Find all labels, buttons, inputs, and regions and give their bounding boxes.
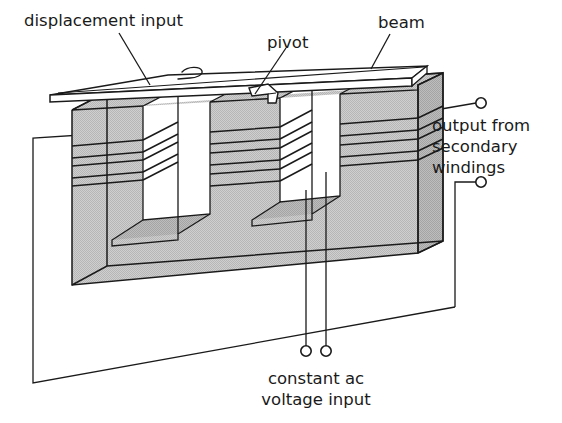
output-bottom-wire — [455, 182, 476, 307]
label-displacement-input: displacement input — [24, 11, 183, 30]
terminal-output-bottom[interactable] — [476, 177, 486, 187]
label-pivot: pivot — [267, 33, 309, 52]
terminal-output-top[interactable] — [476, 98, 486, 108]
leader-beam — [371, 34, 390, 69]
diagram-canvas: displacement input pivot beam output fro… — [0, 0, 562, 423]
terminal-ac-right[interactable] — [321, 346, 331, 356]
label-beam: beam — [378, 13, 425, 32]
label-output-line2: secondary — [432, 137, 518, 156]
leader-displacement — [119, 33, 150, 85]
label-output-line1: output from — [432, 116, 530, 135]
label-ac-line2: voltage input — [261, 390, 371, 409]
transducer-diagram: displacement input pivot beam output fro… — [0, 0, 562, 423]
label-ac-line1: constant ac — [268, 369, 364, 388]
terminal-ac-left[interactable] — [301, 346, 311, 356]
label-output-line3: windings — [432, 158, 505, 177]
